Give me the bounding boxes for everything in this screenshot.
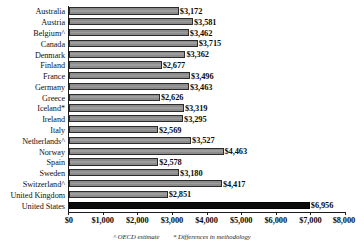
bar-row: Germany$3,463: [68, 82, 345, 93]
category-label: Finland: [40, 61, 65, 70]
bar-row: Spain$2,578: [68, 157, 345, 168]
category-label: Canada: [41, 39, 65, 48]
footnote-oecd-estimate: ^ OECD estimate: [113, 233, 159, 240]
bar: $2,578: [69, 158, 158, 165]
category-label: United Kingdom: [10, 190, 65, 199]
bar-row: Canada$3,715: [68, 38, 345, 49]
bar-row: Australia$3,172: [68, 6, 345, 17]
x-tick-label: $4,000: [195, 216, 217, 226]
bar-row: Norway$4,463: [68, 146, 345, 157]
bar: $3,319: [69, 104, 184, 111]
bar-value-label: $3,180: [180, 168, 202, 177]
bar-row: Greece$2,626: [68, 92, 345, 103]
category-label: France: [43, 72, 65, 81]
bar-row: France$3,496: [68, 71, 345, 82]
bar-row: Denmark$3,362: [68, 49, 345, 60]
bar: $3,462: [69, 29, 189, 36]
x-tick-label: $8,000: [333, 216, 355, 226]
bar-row: Switzerland^$4,417: [68, 179, 345, 190]
bar: $3,715: [69, 40, 198, 47]
bar-row: United Kingdom$2,851: [68, 189, 345, 200]
bar-row: Finland$2,677: [68, 60, 345, 71]
category-label: Australia: [35, 7, 65, 16]
category-label: Switzerland^: [23, 180, 65, 189]
category-label: Netherlands^: [22, 136, 65, 145]
category-label: United States: [22, 201, 65, 210]
category-label: Greece: [42, 93, 65, 102]
category-label: Spain: [47, 158, 65, 167]
x-tick-mark: [68, 212, 69, 215]
x-tick-mark: [345, 212, 346, 215]
x-tick-mark: [172, 212, 173, 215]
bar-rows: Australia$3,172Austria$3,581Belgium^$3,4…: [68, 6, 345, 211]
bar: $4,417: [69, 180, 222, 187]
bar-value-label: $3,172: [180, 6, 202, 15]
bar-value-label: $3,319: [185, 104, 207, 113]
bar-chart: Australia$3,172Austria$3,581Belgium^$3,4…: [0, 0, 364, 248]
plot-area: Australia$3,172Austria$3,581Belgium^$3,4…: [68, 6, 345, 211]
x-tick-label: $0: [65, 216, 73, 226]
x-axis-ticks: $0$1,000$2,000$3,000$4,000$5,000$6,000$7…: [68, 212, 346, 234]
x-tick-mark: [310, 212, 311, 215]
bar-row: Iceland*$3,319: [68, 103, 345, 114]
bar-row: Italy$2,569: [68, 125, 345, 136]
bar: $2,569: [69, 126, 158, 133]
bar-value-label: $3,463: [190, 82, 212, 91]
category-label: Iceland*: [37, 104, 65, 113]
bar-row: Netherlands^$3,527: [68, 135, 345, 146]
category-label: Ireland: [42, 115, 65, 124]
bar-value-label: $2,626: [161, 93, 183, 102]
bar-value-label: $2,569: [159, 125, 181, 134]
bar: $3,496: [69, 72, 190, 79]
bar-value-label: $6,956: [311, 201, 333, 210]
bar-value-label: $3,527: [192, 136, 214, 145]
category-label: Norway: [39, 147, 65, 156]
bar: $3,463: [69, 83, 189, 90]
x-tick-label: $5,000: [230, 216, 252, 226]
bar-row: Belgium^$3,462: [68, 28, 345, 39]
bar-value-label: $3,295: [184, 114, 206, 123]
chart-footnotes: ^ OECD estimate * Differences in methodo…: [0, 232, 364, 241]
bar: $3,180: [69, 169, 179, 176]
bar-value-label: $2,578: [159, 158, 181, 167]
bar-value-label: $3,462: [190, 28, 212, 37]
bar-value-label: $4,417: [223, 179, 245, 188]
bar: $2,851: [69, 191, 168, 198]
bar-value-label: $3,715: [199, 39, 221, 48]
x-tick-mark: [103, 212, 104, 215]
bar: $3,295: [69, 115, 183, 122]
bar-value-label: $3,362: [186, 50, 208, 59]
bar-value-label: $2,677: [163, 60, 185, 69]
bar-row: Ireland$3,295: [68, 114, 345, 125]
bar-value-label: $3,581: [194, 17, 216, 26]
category-label: Germany: [35, 82, 65, 91]
bar-row: Austria$3,581: [68, 17, 345, 28]
bar-row: Sweden$3,180: [68, 168, 345, 179]
category-label: Italy: [50, 126, 65, 135]
bar: $2,677: [69, 61, 162, 68]
x-tick-mark: [276, 212, 277, 215]
x-tick-mark: [137, 212, 138, 215]
bar: $3,527: [69, 137, 191, 144]
x-tick-label: $1,000: [91, 216, 113, 226]
bar: $3,581: [69, 18, 193, 25]
bar: $6,956: [69, 202, 310, 209]
x-tick-label: $7,000: [299, 216, 321, 226]
category-label: Denmark: [35, 50, 65, 59]
x-tick-label: $6,000: [265, 216, 287, 226]
bar: $3,362: [69, 51, 185, 58]
bar-value-label: $3,496: [191, 71, 213, 80]
bar-row: United States$6,956: [68, 200, 345, 211]
bar-value-label: $4,463: [225, 147, 247, 156]
category-label: Austria: [41, 18, 65, 27]
x-tick-mark: [207, 212, 208, 215]
x-tick-mark: [241, 212, 242, 215]
bar: $3,172: [69, 7, 179, 14]
category-label: Sweden: [39, 169, 65, 178]
x-tick-label: $3,000: [161, 216, 183, 226]
category-label: Belgium^: [33, 28, 65, 37]
footnote-methodology: * Differences in methodology: [173, 233, 251, 240]
bar: $2,626: [69, 94, 160, 101]
bar: $4,463: [69, 148, 224, 155]
bar-value-label: $2,851: [169, 190, 191, 199]
